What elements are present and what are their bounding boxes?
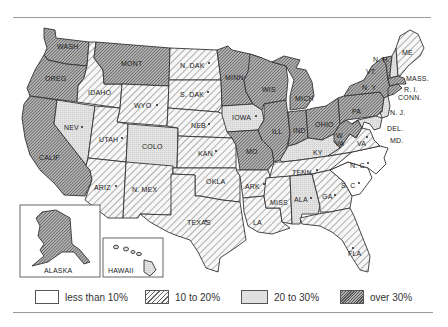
label-vt: VT. bbox=[366, 68, 377, 75]
label-me: ME bbox=[402, 49, 413, 56]
legend-label: less than 10% bbox=[65, 292, 128, 303]
label-okla: OKLA bbox=[206, 178, 226, 185]
label-mass: MASS. bbox=[406, 75, 429, 82]
label-wva-2: VA bbox=[335, 140, 344, 147]
swatch-white bbox=[35, 290, 59, 304]
label-nc: N. C bbox=[350, 162, 365, 169]
label-wva-1: W bbox=[336, 132, 343, 139]
label-hawaii: HAWAII bbox=[108, 267, 134, 274]
label-iowa: IOWA bbox=[232, 114, 251, 121]
label-ohio: OHIO bbox=[315, 121, 334, 128]
label-ark: ARK bbox=[245, 183, 260, 190]
label-ill: ILL bbox=[272, 128, 282, 135]
label-alaska: ALASKA bbox=[44, 267, 73, 274]
legend-item-20to30: 20 to 30% bbox=[241, 289, 319, 305]
label-mont: MONT bbox=[121, 60, 143, 67]
label-mich: MICH bbox=[295, 95, 314, 102]
bottom-rule bbox=[13, 312, 433, 313]
label-kan: KAN bbox=[198, 150, 213, 157]
label-pa: PA bbox=[352, 108, 361, 115]
legend-label: 10 to 20% bbox=[175, 292, 220, 303]
label-nh: N. H. bbox=[373, 56, 390, 63]
state-fla bbox=[300, 208, 370, 272]
label-la: LA bbox=[253, 219, 262, 226]
label-tenn: TENN bbox=[292, 169, 312, 176]
label-md: MD. bbox=[390, 137, 403, 144]
label-sdak: S. DAK bbox=[180, 91, 204, 98]
label-ariz: ARIZ bbox=[94, 184, 111, 191]
label-wis: WIS bbox=[262, 86, 276, 93]
label-ga: GA bbox=[322, 193, 333, 200]
label-del: DEL. bbox=[387, 125, 403, 132]
label-ky: KY bbox=[313, 149, 323, 156]
legend: less than 10% 10 to 20% 20 to 30% over 3… bbox=[0, 289, 448, 305]
label-fla: FLA bbox=[348, 250, 362, 257]
swatch-dense-hatch bbox=[340, 290, 364, 304]
label-wash: WASH bbox=[57, 43, 79, 50]
label-wyo: WYO bbox=[134, 102, 152, 109]
label-oreg: OREG bbox=[45, 75, 66, 82]
label-idaho: IDAHO bbox=[88, 89, 112, 96]
label-ri: R. I. bbox=[404, 86, 418, 93]
label-sc: S. C bbox=[341, 182, 355, 189]
label-ny: N. Y bbox=[362, 84, 376, 91]
label-mo: MO bbox=[246, 148, 258, 155]
legend-item-10to20: 10 to 20% bbox=[145, 289, 220, 305]
label-utah: UTAH bbox=[99, 136, 118, 143]
label-nj: N. J. bbox=[390, 109, 405, 116]
label-conn: CONN. bbox=[398, 94, 422, 101]
label-nev: NEV bbox=[64, 124, 79, 131]
label-minn: MINN bbox=[225, 74, 244, 81]
label-neb: NEB bbox=[191, 122, 206, 129]
label-colo: COLO bbox=[142, 143, 163, 150]
label-calif: CALIF bbox=[39, 154, 60, 161]
label-miss: MISS bbox=[270, 199, 288, 206]
swatch-hatch bbox=[145, 290, 169, 304]
legend-item-over30: over 30% bbox=[340, 289, 412, 305]
state-ny bbox=[344, 58, 390, 98]
label-ndak: N. DAK bbox=[180, 62, 205, 69]
legend-label: 20 to 30% bbox=[274, 292, 319, 303]
swatch-stipple bbox=[241, 290, 268, 304]
us-states-map: WASH OREG CALIF IDAHO NEV MONT WYO UTAH … bbox=[0, 0, 448, 290]
label-nmex: N. MEX bbox=[132, 186, 157, 193]
label-ala: ALA bbox=[294, 196, 308, 203]
label-ind: IND bbox=[293, 127, 306, 134]
label-va: VA bbox=[357, 140, 366, 147]
label-texas: TEXAS bbox=[187, 219, 211, 226]
legend-label: over 30% bbox=[370, 292, 412, 303]
legend-item-lt10: less than 10% bbox=[35, 289, 128, 305]
